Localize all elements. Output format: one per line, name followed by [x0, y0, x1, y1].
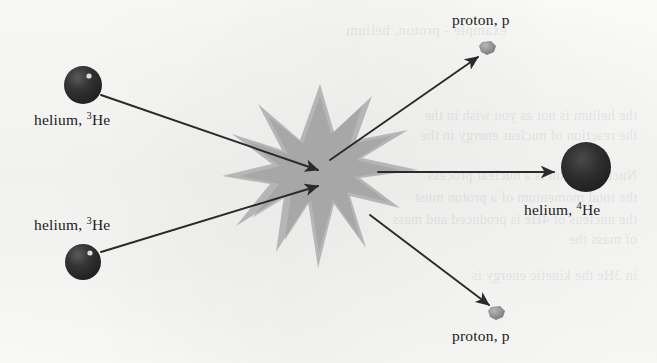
- particle-proton-lower: [488, 306, 505, 320]
- particle-proton-upper: [479, 41, 496, 55]
- label-helium-4: helium, 4He: [524, 201, 600, 219]
- label-helium-3-lower: helium, 3He: [34, 216, 110, 234]
- arrow-outbound-proton-upper: [330, 57, 478, 160]
- diagram-svg: [0, 0, 657, 363]
- collision-starburst: [222, 84, 418, 268]
- arrow-outbound-proton-lower: [370, 215, 489, 305]
- label-proton-upper: proton, p: [452, 11, 510, 29]
- fusion-diagram-canvas: example - proton, heliumthe helium is no…: [0, 0, 657, 363]
- label-helium-3-upper: helium, 3He: [34, 111, 110, 129]
- particle-helium-3-lower: [65, 244, 101, 280]
- particle-helium-3-upper: [64, 66, 102, 104]
- label-proton-lower: proton, p: [452, 327, 510, 345]
- particle-helium-4: [561, 142, 611, 192]
